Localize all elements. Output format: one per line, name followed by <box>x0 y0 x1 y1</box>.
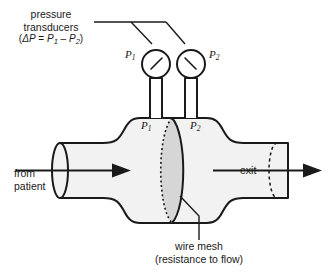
leader-branch-left <box>131 22 152 44</box>
pressure-gauge-p2[interactable] <box>177 50 205 78</box>
inlet-label: from patient <box>14 167 46 192</box>
formula-paren-close: ) <box>80 33 83 44</box>
formula-equals: = <box>36 33 47 44</box>
formula-p1: P <box>47 33 54 44</box>
gauge-p1-label-subscript: 1 <box>132 53 136 62</box>
stem-tube-p2 <box>185 78 197 118</box>
leader-branch-right <box>166 22 185 44</box>
stem-tube-p1 <box>150 78 162 118</box>
outlet-label: exit <box>240 164 256 177</box>
chamber-p2-label: P2 <box>190 119 200 133</box>
inlet-label-line1: from <box>14 167 46 180</box>
gauge-p1-label: P1 <box>125 48 135 62</box>
transducer-label-line2: transducers <box>8 21 94 34</box>
formula-minus: – <box>58 33 69 44</box>
mesh-caption-line2: (resistance to flow) <box>129 253 269 266</box>
gauge-p1-label-text: P <box>125 48 132 60</box>
pressure-gauge-p1[interactable] <box>142 50 170 78</box>
transducer-leader-lines <box>94 22 185 44</box>
mesh-caption: wire mesh (resistance to flow) <box>129 240 269 265</box>
mesh-caption-line1: wire mesh <box>129 240 269 253</box>
chamber-p1-label-text: P <box>141 119 148 131</box>
chamber-p2-label-subscript: 2 <box>197 124 201 133</box>
chamber-p1-label: P1 <box>141 119 151 133</box>
gauge-p2-label: P2 <box>209 48 219 62</box>
pneumotachograph-diagram: pressure transducers (ΔP = P1 – P2) P1 P… <box>0 0 333 273</box>
inlet-label-line2: patient <box>14 180 46 193</box>
chamber-p1-label-subscript: 1 <box>148 124 152 133</box>
transducer-label-block: pressure transducers (ΔP = P1 – P2) <box>8 8 94 48</box>
chamber-p2-label-text: P <box>190 119 197 131</box>
gauge-p2-label-subscript: 2 <box>216 53 220 62</box>
gauge-p2-label-text: P <box>209 48 216 60</box>
formula-p2: P <box>69 33 76 44</box>
transducer-label-line1: pressure <box>8 8 94 21</box>
transducer-stems <box>150 78 197 118</box>
delta-p-formula: (ΔP = P1 – P2) <box>8 33 94 48</box>
formula-delta-p: ΔP <box>22 33 35 44</box>
outlet-arrow-head <box>303 164 322 178</box>
